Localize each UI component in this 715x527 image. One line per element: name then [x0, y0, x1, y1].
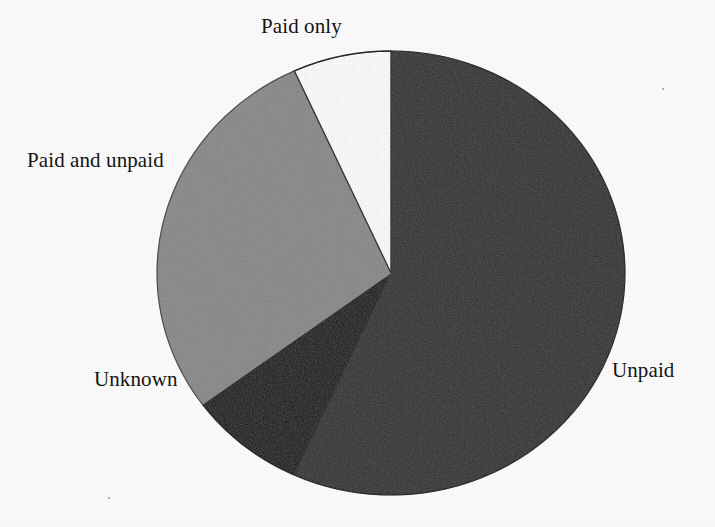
pie-label-unpaid: Unpaid — [612, 358, 674, 382]
pie-slices-group — [157, 51, 625, 495]
pie-label-unknown: Unknown — [94, 367, 178, 391]
scan-speck — [662, 88, 664, 90]
pie-label-paid-only: Paid only — [261, 14, 342, 38]
pie-chart-figure: Paid only Paid and unpaid Unknown Unpaid — [0, 0, 715, 527]
scan-speck — [108, 497, 110, 499]
pie-label-paid-and-unpaid: Paid and unpaid — [27, 148, 164, 172]
pie-chart-canvas — [0, 0, 715, 527]
